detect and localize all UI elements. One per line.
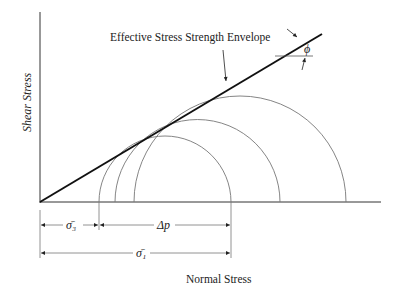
phi-arrow-bottom: [302, 58, 305, 70]
delta-p-label: Δp: [156, 218, 170, 232]
x-axis-label: Normal Stress: [186, 273, 252, 285]
mohr-circle-medium: [115, 120, 280, 202]
envelope-pointer-arrow: [223, 50, 226, 81]
strength-envelope-line: [40, 34, 322, 202]
mohr-circle-large: [134, 96, 346, 202]
y-axis-label: Shear Stress: [20, 72, 34, 132]
sigma1-label: σ̄₁: [136, 246, 146, 260]
envelope-label: Effective Stress Strength Envelope: [110, 31, 270, 44]
mohr-circle-diagram: Effective Stress Strength Envelope ϕ She…: [0, 0, 398, 289]
mohr-circle-small: [99, 136, 231, 202]
phi-arrow-top: [287, 29, 297, 37]
sigma3-label: σ̄₃: [66, 218, 76, 232]
phi-label: ϕ: [304, 42, 310, 56]
